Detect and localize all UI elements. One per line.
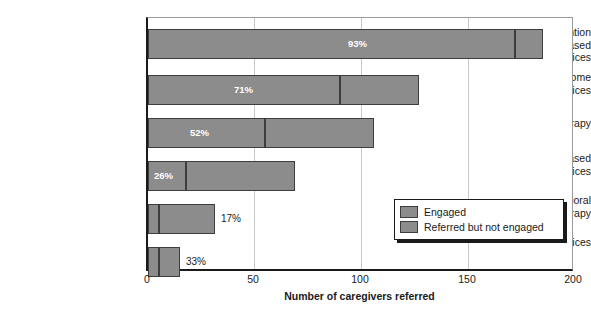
data-label: 17% (221, 204, 241, 234)
data-label: 71% (234, 75, 253, 105)
data-label: 26% (154, 161, 173, 191)
stacked-bar-chart: Early intervention relationship-based se… (0, 0, 591, 310)
bar-segment-referred (159, 204, 215, 234)
bar-segment-referred (340, 75, 419, 105)
bar-segment-engaged (148, 29, 515, 59)
x-tick-label: 50 (247, 273, 259, 285)
legend-swatch-engaged (400, 206, 418, 218)
legend-item-referred: Referred but not engaged (400, 219, 557, 234)
legend-swatch-referred (400, 221, 418, 233)
x-tick-label: 150 (458, 273, 476, 285)
bar-segment-referred (515, 29, 543, 59)
x-tick-label: 100 (351, 273, 369, 285)
legend-item-engaged: Engaged (400, 204, 557, 219)
data-label: 33% (186, 247, 206, 277)
x-tick-label: 200 (564, 273, 582, 285)
chart-legend: Engaged Referred but not engaged (394, 199, 564, 240)
bar-segment-referred (265, 118, 374, 148)
x-axis-title: Number of caregivers referred (146, 290, 573, 302)
data-label: 93% (348, 29, 367, 59)
legend-label: Engaged (424, 206, 466, 218)
bar-segment-referred (159, 247, 180, 277)
data-label: 52% (190, 118, 209, 148)
x-tick-label: 0 (144, 273, 150, 285)
bar-segment-referred (186, 161, 295, 191)
bar-segment-engaged (148, 204, 159, 234)
legend-label: Referred but not engaged (424, 221, 544, 233)
